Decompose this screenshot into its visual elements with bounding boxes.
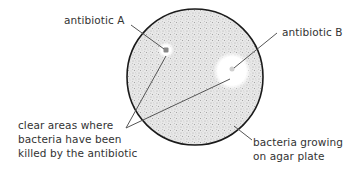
label-antibiotic-b: antibiotic B — [282, 25, 343, 39]
antibiotic-disc-a — [164, 48, 169, 53]
label-antibiotic-a: antibiotic A — [64, 13, 125, 27]
label-clear-areas-line-1: clear areas where — [18, 118, 137, 132]
label-bacteria-growing: bacteria growing on agar plate — [253, 135, 343, 163]
label-bacteria-line-2: on agar plate — [253, 149, 343, 163]
label-clear-areas-line-3: killed by the antibiotic — [18, 146, 137, 160]
antibiotic-disc-b — [230, 67, 235, 72]
label-clear-areas: clear areas where bacteria have been kil… — [18, 118, 137, 160]
leader-line-bacteria — [234, 126, 252, 140]
diagram-canvas: antibiotic A antibiotic B clear areas wh… — [0, 0, 360, 179]
label-clear-areas-line-2: bacteria have been — [18, 132, 137, 146]
label-bacteria-line-1: bacteria growing — [253, 135, 343, 149]
